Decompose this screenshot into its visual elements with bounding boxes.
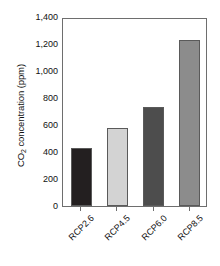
x-axis-tick-mark [189, 207, 190, 211]
x-axis-tick-mark [80, 207, 81, 211]
bar-rcp6-0 [143, 107, 164, 206]
plot-area [62, 18, 207, 207]
bar-rcp8-5 [179, 40, 200, 206]
y-axis-tick-label: 1,400 [26, 13, 58, 22]
y-axis-tick-label: 400 [26, 148, 58, 157]
x-axis-tick-mark [153, 207, 154, 211]
x-axis-tick-mark [116, 207, 117, 211]
bars-layer [63, 19, 206, 206]
y-axis-tick-label: 200 [26, 175, 58, 184]
bar-rcp4-5 [107, 128, 128, 206]
y-axis-tick-group: 02004006008001,0001,2001,400 [22, 0, 58, 266]
y-axis-tick-label: 600 [26, 121, 58, 130]
y-axis-tick-label: 1,200 [26, 40, 58, 49]
bar-rcp2-6 [71, 148, 92, 206]
y-axis-tick-label: 0 [26, 202, 58, 211]
y-axis-tick-label: 800 [26, 94, 58, 103]
y-axis-tick-label: 1,000 [26, 67, 58, 76]
x-axis-tick-group: RCP2.6RCP4.5RCP6.0RCP8.5 [62, 207, 207, 266]
bar-chart-figure: CO2 concentration (ppm) 02004006008001,0… [0, 0, 220, 266]
